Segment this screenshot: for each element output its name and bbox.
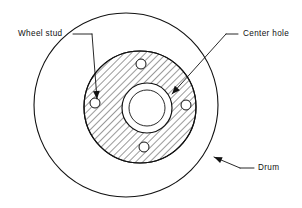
wheel-stud-label: Wheel stud	[18, 29, 63, 38]
wheel-stud	[139, 142, 149, 152]
wheel-stud	[90, 98, 100, 108]
center-hole-outer-circle	[122, 83, 172, 133]
drum-label: Drum	[258, 163, 279, 172]
wheel-stud	[181, 100, 191, 110]
diagram-canvas: Wheel stud Center hole Drum	[0, 0, 302, 208]
center-hole-label: Center hole	[243, 29, 289, 38]
wheel-stud	[136, 59, 146, 69]
brake-drum-figure: Wheel stud Center hole Drum	[0, 0, 302, 208]
